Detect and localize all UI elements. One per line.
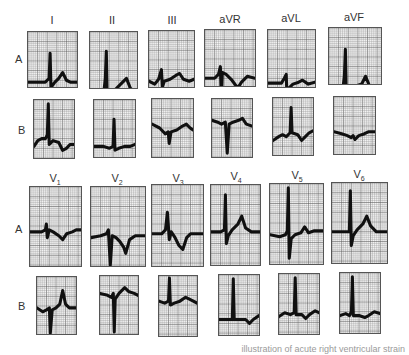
figure-caption: illustration of acute right ventricular … (0, 344, 409, 354)
ecg-panel-ii-b (93, 99, 136, 158)
ecg-panel-v3-b (158, 275, 198, 337)
lead-header-avl: aVL (281, 12, 301, 24)
ecg-panel-v4-b (218, 274, 260, 336)
ecg-grid (90, 32, 137, 88)
ecg-trace (211, 195, 260, 244)
ecg-panel-v6-b (339, 272, 381, 334)
ecg-grid (205, 30, 255, 86)
ecg-panel-v5-b (278, 273, 320, 335)
ecg-panel-i-b (33, 99, 75, 159)
lead-header-iii: III (167, 14, 176, 26)
ecg-grid (329, 28, 381, 84)
ecg-panel-v2-a (90, 186, 146, 267)
ecg-panel-v5-a (269, 183, 324, 265)
ecg-grid (159, 276, 197, 336)
ecg-grid (211, 185, 260, 265)
lead-header-v1: V1 (49, 172, 60, 186)
ecg-grid (152, 185, 203, 266)
ecg-panel-avr-a (204, 29, 256, 87)
ecg-grid (34, 100, 74, 158)
ecg-panel-v1-b (36, 276, 77, 335)
ecg-grid (340, 273, 380, 333)
ecg-trace (90, 51, 137, 88)
ecg-grid (273, 98, 313, 155)
row-label-a: A (15, 223, 22, 235)
ecg-grid (334, 97, 375, 154)
ecg-panel-i-a (27, 31, 78, 88)
ecg-grid (91, 187, 145, 266)
lead-header-v4: V4 (230, 170, 241, 184)
ecg-panel-v6-a (331, 182, 388, 264)
ecg-grid (152, 99, 193, 157)
lead-header-v6: V6 (353, 168, 364, 182)
ecg-grid (279, 274, 319, 334)
ecg-grid (149, 31, 194, 87)
ecg-panel-iii-b (151, 98, 194, 158)
ecg-grid (94, 100, 135, 157)
lead-header-avr: aVR (219, 13, 240, 25)
lead-header-ii: II (109, 14, 115, 26)
lead-header-v2: V2 (111, 172, 122, 186)
lead-header-avf: aVF (344, 11, 364, 23)
ecg-grid (212, 99, 252, 157)
ecg-grid (30, 187, 81, 266)
ecg-grid (37, 277, 76, 334)
ecg-panel-avl-a (267, 29, 316, 88)
lead-header-v5: V5 (291, 169, 302, 183)
row-label-b: B (18, 124, 25, 136)
lead-header-i: I (50, 14, 53, 26)
ecg-panel-avr-b (211, 98, 253, 158)
ecg-trace (219, 279, 259, 324)
ecg-panel-ii-a (89, 31, 138, 89)
ecg-panel-v2-b (99, 275, 139, 335)
ecg-panel-avf-a (328, 27, 382, 85)
ecg-grid (219, 275, 259, 335)
ecg-grid (100, 276, 138, 334)
ecg-grid (270, 184, 323, 264)
ecg-panel-iii-a (148, 30, 195, 88)
row-label-a: A (15, 53, 22, 65)
ecg-panel-avf-b (333, 96, 376, 155)
row-label-b: B (18, 300, 25, 312)
ecg-panel-v4-a (210, 184, 261, 266)
ecg-grid (332, 183, 387, 263)
ecg-panel-v3-a (151, 184, 204, 267)
ecg-panel-v1-a (29, 186, 82, 267)
ecg-grid (268, 30, 315, 87)
ecg-panel-avl-b (272, 97, 314, 156)
ecg-grid (28, 32, 77, 87)
